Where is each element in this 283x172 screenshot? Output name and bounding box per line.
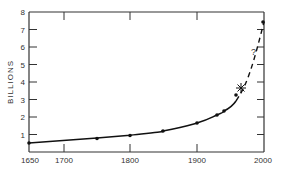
- x-tick-2000: 2000: [254, 156, 272, 165]
- x-tick-1900: 1900: [188, 156, 206, 165]
- y-tick-5: 5: [21, 61, 26, 70]
- x-tick-1700: 1700: [55, 156, 73, 165]
- y-tick-8: 8: [21, 8, 26, 17]
- y-tick-2: 2: [21, 113, 26, 122]
- y-tick-3: 3: [21, 96, 26, 105]
- population-chart: 1 2 3 4 5 6 7 8 1650 1700 1800 1900 2000…: [0, 0, 283, 172]
- population-curve: [29, 101, 236, 143]
- y-ticks-left: [29, 30, 37, 135]
- y-axis-title: BILLIONS: [6, 60, 15, 104]
- y-tick-7: 7: [21, 26, 26, 35]
- axes: [29, 12, 264, 152]
- question-annotation: ?: [251, 47, 256, 57]
- y-tick-4: 4: [21, 78, 26, 87]
- asterisk-marker-icon: [236, 83, 246, 93]
- x-ticks: [64, 12, 197, 152]
- y-tick-labels: 1 2 3 4 5 6 7 8: [21, 8, 26, 140]
- x-tick-1650: 1650: [21, 156, 39, 165]
- y-tick-6: 6: [21, 43, 26, 52]
- data-points: [27, 20, 265, 145]
- y-ticks-right: [257, 30, 264, 135]
- y-tick-1: 1: [21, 131, 26, 140]
- x-tick-1800: 1800: [121, 156, 139, 165]
- x-tick-labels: 1650 1700 1800 1900 2000: [21, 156, 272, 165]
